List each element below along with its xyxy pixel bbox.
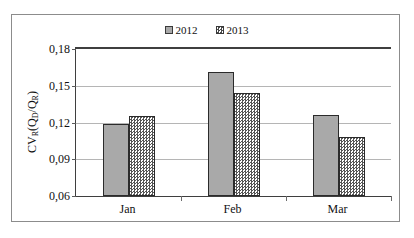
legend-swatch-2013-icon [216,26,224,34]
x-category-label-feb: Feb [180,203,285,215]
legend-entry-2013[interactable]: 2013 [216,25,249,36]
x-category-label-jan: Jan [75,203,180,215]
bar-2013-feb[interactable] [234,93,260,196]
y-tick-mark [72,196,76,197]
x-axis-separator [391,196,392,201]
y-tick-label: 0,09 [49,153,70,165]
y-axis-title: CVR(QD/QR) [26,47,40,197]
bar-2013-mar[interactable] [339,137,365,196]
bar-group [181,49,286,196]
chart-frame: 2012 2013 CVR(QD/QR) 0,060,090,120,150,1… [11,14,400,222]
y-tick-label: 0,12 [49,117,70,129]
legend-label-2012: 2012 [176,25,198,36]
legend-swatch-2012-icon [165,26,173,34]
bar-2012-mar[interactable] [313,115,339,196]
legend-entry-2012[interactable]: 2012 [165,25,198,36]
bar-2012-jan[interactable] [103,124,129,196]
y-tick-label: 0,18 [49,43,70,55]
legend-label-2013: 2013 [227,25,249,36]
bar-group [76,49,181,196]
y-tick-label: 0,06 [49,190,70,202]
bar-group [286,49,391,196]
bar-2012-feb[interactable] [208,72,234,196]
y-axis-title-text: CVR(QD/QR) [26,91,40,153]
x-axis-separator [181,196,182,201]
x-axis-separator [286,196,287,201]
bars-layer [76,49,391,196]
x-category-label-mar: Mar [285,203,390,215]
bar-2013-jan[interactable] [129,116,155,196]
figure: 2012 2013 CVR(QD/QR) 0,060,090,120,150,1… [0,0,414,238]
chart-legend: 2012 2013 [12,21,401,39]
y-tick-label: 0,15 [49,80,70,92]
plot-area: 0,060,090,120,150,18 [75,47,391,197]
